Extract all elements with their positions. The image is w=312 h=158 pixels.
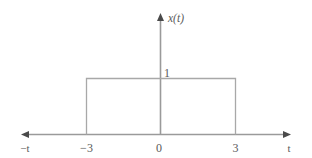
plot-canvas: x(t) 1 −3 0 3 −t t bbox=[0, 0, 312, 158]
signal-plot-figure: x(t) 1 −3 0 3 −t t bbox=[0, 0, 312, 158]
t-axis-right-arrow-icon bbox=[283, 131, 291, 138]
tick-label-minus-three: −3 bbox=[80, 141, 93, 155]
function-label: x(t) bbox=[167, 12, 184, 25]
amplitude-label: 1 bbox=[164, 66, 170, 80]
t-axis-left-arrow-icon bbox=[21, 131, 29, 138]
t-axis bbox=[21, 131, 291, 138]
tick-label-three: 3 bbox=[233, 141, 239, 155]
axis-label-positive-t: t bbox=[287, 142, 290, 154]
x-axis bbox=[157, 13, 164, 135]
x-axis-up-arrow-icon bbox=[157, 13, 164, 21]
tick-label-origin: 0 bbox=[156, 141, 162, 155]
axis-label-negative-t: −t bbox=[20, 142, 29, 154]
